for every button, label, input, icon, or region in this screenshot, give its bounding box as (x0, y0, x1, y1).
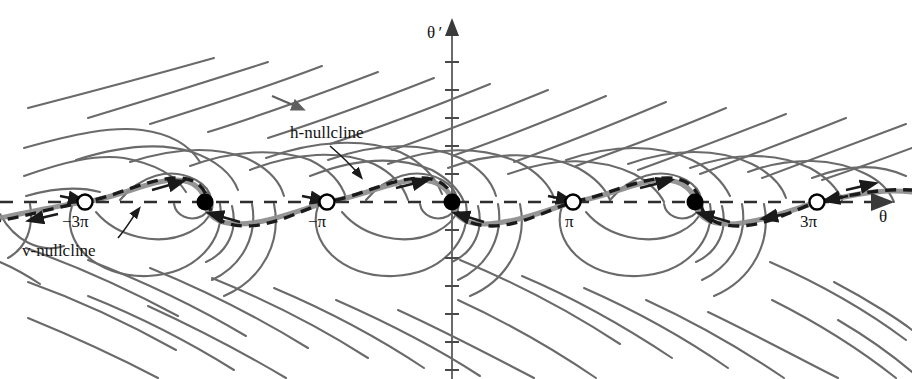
saddle-point (810, 195, 825, 210)
h-nullcline-label: h-nullcline (290, 124, 364, 141)
x-axis-label: θ (879, 208, 887, 225)
y-axis-label: θ ′ (427, 24, 442, 41)
trajectory-group-bending (24, 129, 906, 202)
saddle-point (78, 195, 93, 210)
tick-label-minus-pi: −π (308, 213, 326, 230)
v-nullcline-label-symbol: v (22, 241, 31, 260)
v-nullcline-label: v-nullcline (22, 242, 96, 259)
sink-point (197, 194, 214, 211)
tick-label-pi: π (565, 213, 574, 230)
h-nullcline-label-text: -nullcline (299, 123, 364, 142)
tick-label-3pi: 3π (800, 213, 817, 230)
phase-portrait-figure: θ ′ θ −3π −π π 3π h-nullcline v-nullclin… (0, 0, 912, 379)
v-nullcline-label-text: -nullcline (31, 241, 96, 260)
tick-label-minus-3pi: −3π (62, 213, 89, 230)
trajectory-group-spirals (0, 174, 766, 296)
sink-point (687, 194, 704, 211)
saddle-point (320, 195, 335, 210)
saddle-point (566, 195, 581, 210)
sink-point (444, 194, 461, 211)
h-nullcline-label-symbol: h (290, 123, 299, 142)
phase-portrait-canvas (0, 0, 912, 379)
